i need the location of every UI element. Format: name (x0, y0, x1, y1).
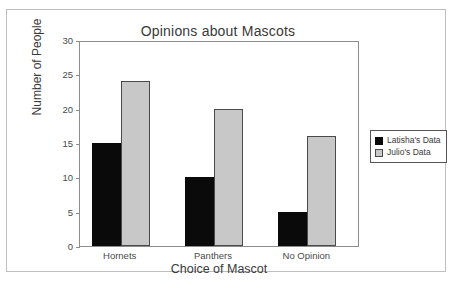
y-tick-label: 10 (62, 172, 73, 183)
y-tick-mark (76, 247, 80, 248)
x-axis-tick-label: Hornets (103, 250, 136, 261)
bar-no-opinion-series-1 (307, 136, 336, 246)
chart-legend: Latisha's DataJulio's Data (370, 130, 447, 163)
plot-area: 051015202530 (79, 41, 359, 247)
y-tick-label: 15 (62, 138, 73, 149)
y-tick-label: 20 (62, 104, 73, 115)
figure-frame: Opinions about Mascots 051015202530 Numb… (6, 9, 446, 272)
y-tick-mark (76, 178, 80, 179)
y-tick-mark (76, 213, 80, 214)
y-tick-mark (76, 75, 80, 76)
y-tick-label: 5 (68, 207, 73, 218)
y-tick-label: 30 (62, 35, 73, 46)
bar-panthers-series-0 (185, 177, 214, 246)
legend-label: Latisha's Data (387, 136, 441, 145)
y-axis-label: Number of People (30, 0, 44, 137)
plot-inner (80, 42, 358, 246)
bar-no-opinion-series-0 (278, 212, 307, 246)
y-tick-label: 0 (68, 241, 73, 252)
bar-hornets-series-0 (92, 143, 121, 246)
bar-hornets-series-1 (121, 81, 150, 246)
y-tick-mark (76, 41, 80, 42)
legend-item: Julio's Data (375, 147, 441, 158)
legend-swatch-icon (375, 149, 383, 157)
legend-swatch-icon (375, 137, 383, 145)
legend-label: Julio's Data (387, 148, 431, 157)
y-tick-mark (76, 110, 80, 111)
y-tick-label: 25 (62, 69, 73, 80)
legend-item: Latisha's Data (375, 135, 441, 146)
x-axis-label: Choice of Mascot (79, 262, 359, 276)
y-tick-mark (76, 144, 80, 145)
x-axis-tick-label: Panthers (194, 250, 232, 261)
chart-title: Opinions about Mascots (73, 23, 363, 39)
bar-panthers-series-1 (214, 109, 243, 246)
x-axis-tick-label: No Opinion (283, 250, 331, 261)
